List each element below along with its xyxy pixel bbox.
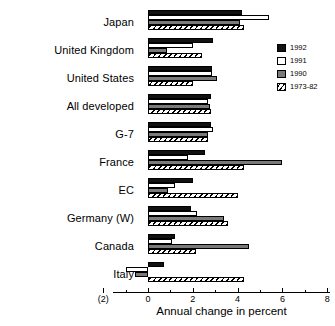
bar-1973-82-france bbox=[148, 165, 244, 170]
x-tick-major bbox=[282, 288, 283, 293]
x-axis-title: Annual change in percent bbox=[113, 305, 330, 317]
legend-swatch-icon bbox=[277, 44, 286, 52]
category-label: G-7 bbox=[0, 120, 134, 148]
legend-label: 1991 bbox=[290, 56, 307, 65]
bar-1990-italy bbox=[135, 272, 148, 277]
x-tick-minor bbox=[170, 290, 171, 293]
bar-chart: JapanUnited KingdomUnited StatesAll deve… bbox=[0, 0, 335, 326]
category-label: Italy bbox=[0, 260, 134, 288]
x-tick-label: 0 bbox=[136, 294, 160, 304]
bar-1973-82-canada bbox=[148, 249, 196, 254]
bar-group bbox=[148, 120, 335, 148]
legend-label: 1990 bbox=[290, 69, 307, 78]
category-label: United States bbox=[0, 64, 134, 92]
x-tick-major bbox=[238, 288, 239, 293]
x-tick-major bbox=[327, 288, 328, 293]
x-tick-label: 2 bbox=[181, 294, 205, 304]
legend-label: 1973-82 bbox=[290, 82, 318, 91]
chart-legend: 1992199119901973-82 bbox=[277, 42, 318, 94]
category-label: Japan bbox=[0, 8, 134, 36]
bar-1973-82-germany-w- bbox=[148, 221, 228, 226]
x-tick-major bbox=[103, 288, 104, 293]
x-tick-major bbox=[148, 288, 149, 293]
legend-label: 1992 bbox=[290, 43, 307, 52]
category-label: All developed bbox=[0, 92, 134, 120]
x-tick-label: 8 bbox=[315, 294, 335, 304]
legend-item: 1973-82 bbox=[277, 81, 318, 92]
bar-group bbox=[148, 148, 335, 176]
bar-group bbox=[148, 260, 335, 288]
category-label: France bbox=[0, 148, 134, 176]
x-tick-label: 6 bbox=[270, 294, 294, 304]
legend-item: 1991 bbox=[277, 55, 318, 66]
legend-swatch-icon bbox=[277, 70, 286, 78]
bar-1973-82-united-states bbox=[148, 81, 193, 86]
x-tick-label: (2) bbox=[91, 294, 115, 304]
x-tick-major bbox=[193, 288, 194, 293]
x-tick-minor bbox=[215, 290, 216, 293]
bar-1973-82-japan bbox=[148, 25, 244, 30]
legend-swatch-icon bbox=[277, 83, 286, 91]
bar-1973-82-g-7 bbox=[148, 137, 208, 142]
legend-item: 1990 bbox=[277, 68, 318, 79]
bar-1973-82-italy bbox=[148, 277, 244, 282]
bar-1973-82-all-developed bbox=[148, 109, 211, 114]
bar-group bbox=[148, 8, 335, 36]
x-axis-line bbox=[113, 292, 330, 293]
x-tick-label: 4 bbox=[226, 294, 250, 304]
category-axis: JapanUnited KingdomUnited StatesAll deve… bbox=[0, 8, 134, 288]
x-tick-minor bbox=[126, 290, 127, 293]
category-label: Germany (W) bbox=[0, 204, 134, 232]
bar-group bbox=[148, 232, 335, 260]
legend-item: 1992 bbox=[277, 42, 318, 53]
bar-1973-82-united-kingdom bbox=[148, 53, 202, 58]
x-tick-minor bbox=[305, 290, 306, 293]
legend-swatch-icon bbox=[277, 57, 286, 65]
bar-group bbox=[148, 176, 335, 204]
bar-1992-italy bbox=[148, 262, 164, 267]
category-label: United Kingdom bbox=[0, 36, 134, 64]
x-tick-minor bbox=[260, 290, 261, 293]
category-label: Canada bbox=[0, 232, 134, 260]
bar-1973-82-ec bbox=[148, 193, 238, 198]
category-label: EC bbox=[0, 176, 134, 204]
bar-group bbox=[148, 204, 335, 232]
bar-group bbox=[148, 92, 335, 120]
